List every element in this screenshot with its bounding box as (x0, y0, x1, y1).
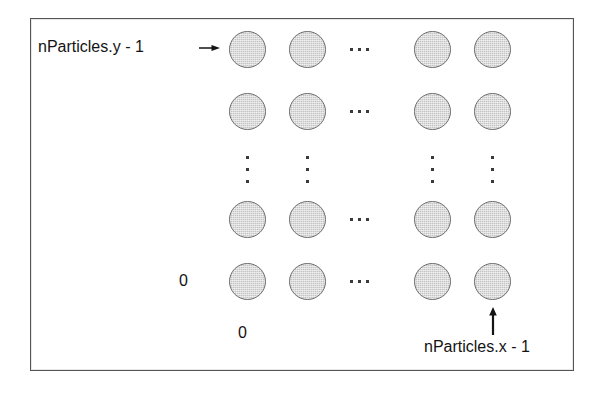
particle-circle (414, 31, 451, 68)
y-max-label: nParticles.y - 1 (38, 38, 144, 56)
particle-circle (229, 201, 266, 238)
particle-circle (474, 201, 511, 238)
particle-circle (289, 263, 326, 300)
vertical-ellipsis (306, 156, 309, 183)
ellipsis-dot (358, 110, 361, 113)
x-max-label: nParticles.x - 1 (424, 338, 530, 356)
particle-circle (414, 93, 451, 130)
particle-circle (289, 93, 326, 130)
ellipsis-dot (358, 280, 361, 283)
particle-circle (474, 93, 511, 130)
ellipsis-dot (306, 180, 309, 183)
ellipsis-dot (246, 180, 249, 183)
ellipsis-dot (350, 110, 353, 113)
horizontal-ellipsis (350, 280, 369, 283)
ellipsis-dot (246, 156, 249, 159)
horizontal-ellipsis (350, 218, 369, 221)
ellipsis-dot (306, 168, 309, 171)
ellipsis-dot (366, 110, 369, 113)
particle-circle (229, 263, 266, 300)
particle-circle (229, 31, 266, 68)
particle-circle (289, 31, 326, 68)
vertical-ellipsis (431, 156, 434, 183)
ellipsis-dot (358, 48, 361, 51)
particle-circle (414, 263, 451, 300)
ellipsis-dot (431, 180, 434, 183)
particle-circle (414, 201, 451, 238)
particle-circle (474, 31, 511, 68)
ellipsis-dot (350, 218, 353, 221)
particle-circle (289, 201, 326, 238)
ellipsis-dot (246, 168, 249, 171)
ellipsis-dot (431, 168, 434, 171)
ellipsis-dot (306, 156, 309, 159)
ellipsis-dot (491, 156, 494, 159)
vertical-ellipsis (246, 156, 249, 183)
horizontal-ellipsis (350, 48, 369, 51)
particle-circle (474, 263, 511, 300)
x-min-label: 0 (238, 324, 247, 342)
ellipsis-dot (350, 48, 353, 51)
y-min-label: 0 (179, 272, 188, 290)
ellipsis-dot (366, 48, 369, 51)
ellipsis-dot (366, 280, 369, 283)
ellipsis-dot (358, 218, 361, 221)
particle-circle (229, 93, 266, 130)
ellipsis-dot (491, 168, 494, 171)
ellipsis-dot (366, 218, 369, 221)
arrow-right-icon (199, 40, 221, 52)
horizontal-ellipsis (350, 110, 369, 113)
ellipsis-dot (431, 156, 434, 159)
ellipsis-dot (350, 280, 353, 283)
vertical-ellipsis (491, 156, 494, 183)
ellipsis-dot (491, 180, 494, 183)
arrow-up-icon (486, 307, 500, 335)
